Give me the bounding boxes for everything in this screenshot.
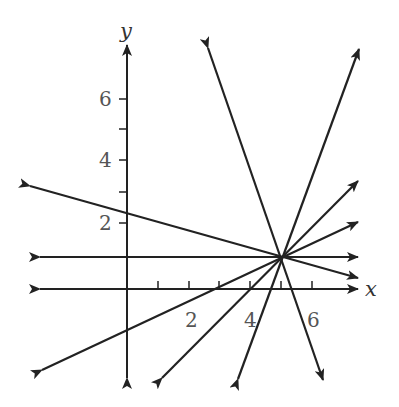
y-tick-label: 4 [99,148,112,172]
x-tick-label: 4 [244,308,257,332]
x-tick-label: 2 [185,308,198,332]
y-tick-label: 2 [99,211,112,235]
y-ticks [119,99,127,257]
x-tick-label: 6 [307,308,320,332]
line-steep-falling [208,48,323,380]
y-axis-label: y [119,19,133,43]
line-steep-rising [238,49,359,379]
line-rising-mid [162,181,358,378]
y-tick-label: 6 [99,87,112,111]
coordinate-plane: 2 4 6 2 4 6 x y [0,0,399,407]
line-rising-low [42,222,358,370]
x-axis-label: x [365,277,377,301]
